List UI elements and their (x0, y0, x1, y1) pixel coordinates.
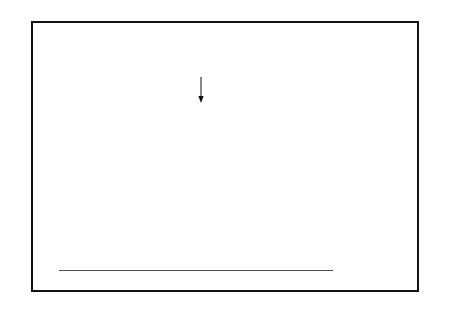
annotation-arrow (198, 77, 203, 103)
chart-plot-area (59, 51, 333, 271)
seat-rule-graphic (59, 45, 359, 59)
chart-frame (31, 21, 419, 292)
stacked-area-chart (59, 51, 333, 271)
legend-leader-lines (333, 51, 373, 273)
chart-header (33, 23, 417, 45)
